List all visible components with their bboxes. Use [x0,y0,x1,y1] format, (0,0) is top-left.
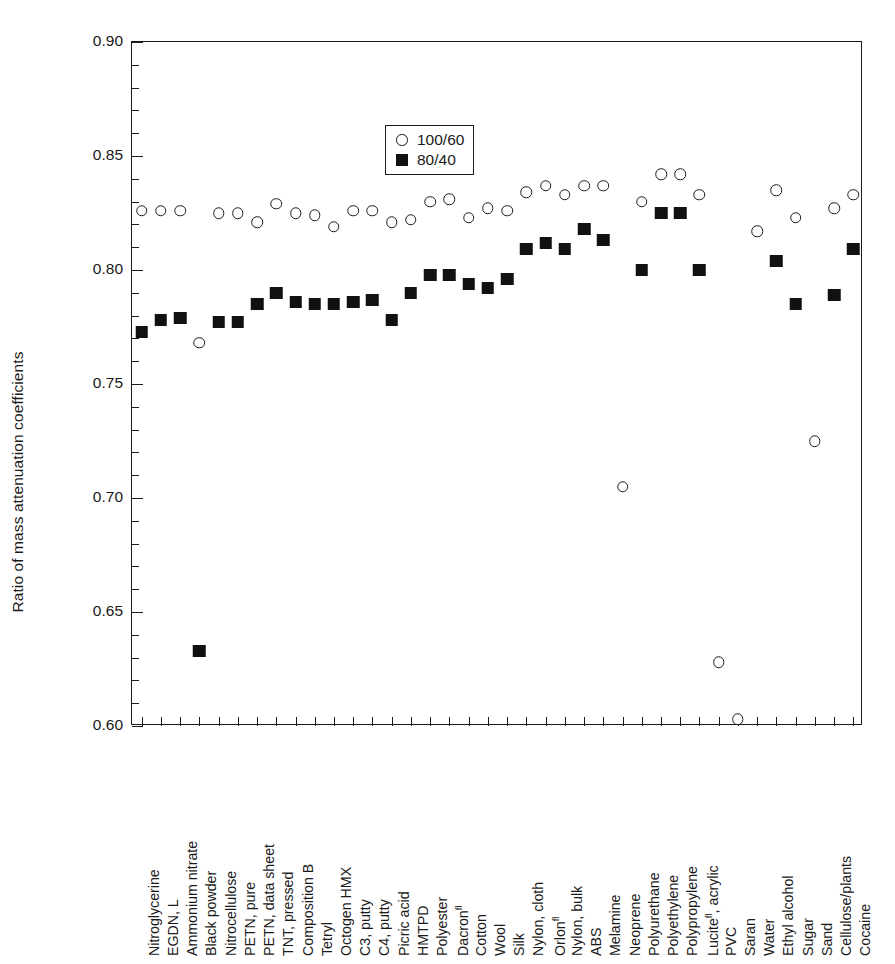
x-tick [853,717,854,726]
data-point-100-60 [271,198,283,210]
x-axis-label: Cotton [473,914,489,956]
data-point-80-40 [270,287,283,299]
x-tick [661,717,662,726]
legend-item-80-40: 80/40 [393,150,464,170]
data-point-80-40 [693,264,706,276]
x-tick [815,717,816,726]
x-axis-label: Composition B [300,864,316,956]
x-tick [238,717,239,726]
x-tick [680,717,681,726]
x-axis-label: Octogen HMX [338,867,354,956]
y-tick-minor [132,133,139,134]
data-point-80-40 [770,255,783,267]
x-tick [180,717,181,726]
y-tick-minor [132,316,139,317]
data-point-100-60 [232,207,244,219]
data-point-80-40 [559,243,572,255]
data-point-100-60 [848,189,860,201]
y-tick-major [132,726,143,727]
x-axis-label: Neoprene [627,894,643,956]
x-tick [603,717,604,726]
x-tick [757,717,758,726]
data-point-80-40 [309,298,322,310]
data-point-80-40 [155,314,168,326]
x-axis-label: Dacronfl [453,906,471,957]
y-tick-minor [132,452,139,453]
data-point-80-40 [424,269,437,281]
y-tick-major [132,384,143,385]
data-point-100-60 [501,205,513,217]
data-point-100-60 [386,216,398,228]
x-axis-label: HMTPD [415,906,431,956]
data-point-100-60 [713,656,725,668]
y-tick-minor [132,635,139,636]
data-point-80-40 [539,237,552,249]
data-point-100-60 [136,205,148,217]
x-axis-label: Picric acid [396,891,412,956]
x-axis-label: EGDN, L [165,899,181,956]
data-point-80-40 [520,243,533,255]
data-point-80-40 [482,282,495,294]
data-point-80-40 [462,278,475,290]
data-point-100-60 [694,189,706,201]
x-axis-label: ABS [588,928,604,956]
data-point-100-60 [675,168,687,180]
y-tick-label: 0.65 [53,602,123,620]
data-point-100-60 [809,435,821,447]
x-axis-label: Polyethylene [665,875,681,956]
y-tick-label: 0.60 [53,716,123,734]
plot-area: 100/60 80/40 [131,41,862,725]
x-axis-label: Nylon, cloth [530,882,546,956]
x-tick [142,717,143,726]
x-axis-label: Cellulose/plants [838,856,854,956]
x-tick [488,717,489,726]
x-axis-label: Nitrocellulose [223,871,239,956]
y-tick-minor [132,680,139,681]
data-point-80-40 [251,298,264,310]
data-point-100-60 [347,205,359,217]
y-tick-minor [132,110,139,111]
data-point-80-40 [328,298,341,310]
data-point-100-60 [771,184,783,196]
x-tick [392,717,393,726]
y-tick-minor [132,566,139,567]
data-point-80-40 [232,316,245,328]
data-point-100-60 [598,180,610,192]
x-axis-label: Cocaine [857,904,873,956]
data-point-80-40 [578,223,591,235]
x-tick [642,717,643,726]
x-tick [449,717,450,726]
data-point-80-40 [212,316,225,328]
x-tick [719,717,720,726]
x-axis-label: Ammonium nitrate [184,841,200,956]
x-tick [546,717,547,726]
y-tick-minor [132,430,139,431]
y-tick-major [132,270,143,271]
data-point-100-60 [540,180,552,192]
data-point-80-40 [366,294,379,306]
y-tick-minor [132,589,139,590]
x-tick [507,717,508,726]
legend-label: 100/60 [417,131,464,149]
data-point-100-60 [328,221,340,233]
x-axis-label: Water [761,919,777,956]
data-point-100-60 [828,203,840,215]
x-axis-category-labels: NitroglycerineEGDN, LAmmonium nitrateBla… [131,734,862,962]
legend-item-100-60: 100/60 [393,130,464,150]
data-point-100-60 [655,168,667,180]
y-tick-minor [132,544,139,545]
x-axis-label: Melamine [607,894,623,956]
filled-square-icon [393,154,411,166]
data-point-100-60 [155,205,167,217]
x-axis-label: PVC [723,927,739,956]
x-tick [776,717,777,726]
x-tick [796,717,797,726]
data-point-80-40 [174,312,187,324]
y-tick-label: 0.85 [53,146,123,164]
x-axis-label: Lucitefl, acrylic [703,865,721,956]
x-tick [219,717,220,726]
data-point-80-40 [674,207,687,219]
x-axis-label: Polyester [434,897,450,956]
legend-label: 80/40 [417,151,456,169]
data-point-100-60 [251,216,263,228]
